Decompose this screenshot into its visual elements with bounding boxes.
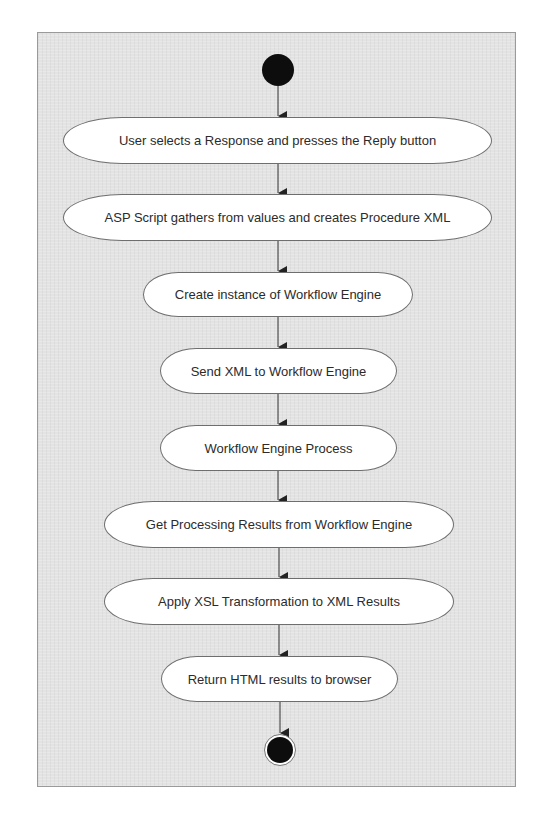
activity-get-processing-results: Get Processing Results from Workflow Eng… [104, 501, 454, 548]
activity-send-xml: Send XML to Workflow Engine [160, 348, 397, 394]
activity-label: User selects a Response and presses the … [119, 133, 436, 148]
activity-create-workflow-engine: Create instance of Workflow Engine [143, 272, 413, 317]
activity-label: ASP Script gathers from values and creat… [105, 210, 451, 225]
activity-label: Apply XSL Transformation to XML Results [158, 594, 400, 609]
activity-asp-script-gathers: ASP Script gathers from values and creat… [63, 194, 492, 241]
activity-apply-xsl-transformation: Apply XSL Transformation to XML Results [104, 578, 454, 625]
activity-workflow-engine-process: Workflow Engine Process [160, 425, 397, 471]
final-node-core [267, 737, 293, 763]
activity-return-html-results: Return HTML results to browser [161, 656, 398, 702]
activity-user-selects-response: User selects a Response and presses the … [63, 117, 492, 164]
initial-node [262, 54, 294, 86]
activity-label: Workflow Engine Process [205, 441, 353, 456]
final-node [264, 734, 296, 766]
activity-label: Create instance of Workflow Engine [175, 287, 381, 302]
activity-label: Get Processing Results from Workflow Eng… [146, 517, 412, 532]
activity-label: Return HTML results to browser [188, 672, 372, 687]
activity-label: Send XML to Workflow Engine [191, 364, 367, 379]
